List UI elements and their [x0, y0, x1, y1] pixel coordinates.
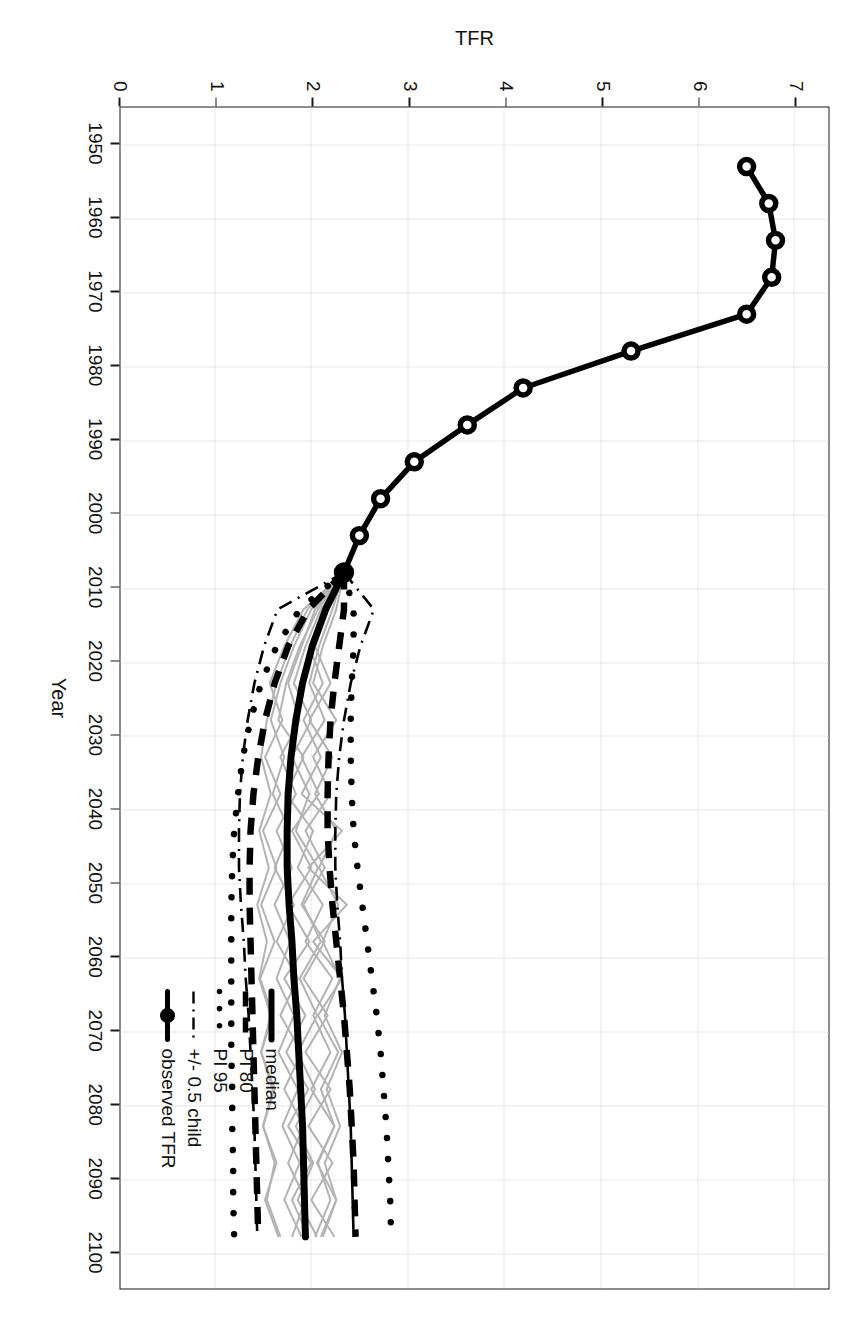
x-axis-tick	[110, 216, 119, 218]
x-axis-tick-label: 1980	[83, 344, 105, 386]
y-axis-tick-label: 3	[398, 80, 420, 91]
x-axis-tick	[110, 438, 119, 440]
observed-point	[761, 196, 775, 210]
x-axis-tick	[110, 808, 119, 810]
x-axis-tick-label: 2060	[83, 935, 105, 977]
y-axis-tick-label: 2	[301, 80, 323, 91]
x-axis-tick-label: 2010	[83, 565, 105, 607]
x-axis-tick	[110, 142, 119, 144]
y-axis-tick	[601, 97, 603, 106]
legend-item-0-5-child: +/- 0.5 child	[180, 989, 206, 1168]
y-axis-tick-label: 7	[784, 80, 806, 91]
y-axis-tick	[311, 97, 313, 106]
x-axis-tick	[110, 364, 119, 366]
observed-point	[407, 454, 421, 468]
x-axis-tick	[110, 660, 119, 662]
x-axis-tick	[110, 1103, 119, 1105]
y-axis-tick-label: 0	[108, 80, 130, 91]
series-observed-tfr	[343, 166, 775, 572]
x-axis-tick-label: 1970	[83, 270, 105, 312]
x-axis-tick-label: 2090	[83, 1157, 105, 1199]
legend-label: PI 95	[208, 1041, 230, 1092]
observed-point	[516, 380, 530, 394]
x-axis-tick-label: 1960	[83, 196, 105, 238]
legend-key-dashdot	[180, 989, 206, 1041]
legend-item-pi-80: PI 80	[232, 989, 258, 1168]
legend-key-solid-thick	[258, 989, 284, 1041]
legend: medianPI 80PI 95+/- 0.5 childobserved TF…	[154, 989, 284, 1168]
x-axis-tick-label: 2100	[83, 1231, 105, 1273]
observed-point	[336, 565, 351, 580]
x-axis-tick-label: 2030	[83, 713, 105, 755]
legend-label: median	[260, 1041, 282, 1110]
y-axis-tick	[408, 97, 410, 106]
observed-point	[624, 344, 638, 358]
x-axis-tick-label: 2000	[83, 492, 105, 534]
x-axis-tick	[110, 882, 119, 884]
y-axis-tick-label: 6	[688, 80, 710, 91]
x-axis-title: Year	[46, 677, 69, 717]
observed-point	[768, 233, 782, 247]
y-axis-tick-label: 4	[494, 80, 516, 91]
legend-label: observed TFR	[156, 1041, 178, 1168]
x-axis-tick	[110, 290, 119, 292]
x-axis-tick-label: 2020	[83, 639, 105, 681]
figure-page: 1950196019701980199020002010202020302040…	[0, 0, 862, 1321]
legend-key-dotted	[206, 989, 232, 1041]
legend-item-pi-95: PI 95	[206, 989, 232, 1168]
legend-key-dashed	[232, 989, 258, 1041]
x-axis-tick-label: 2080	[83, 1083, 105, 1125]
observed-point	[764, 270, 778, 284]
x-axis-tick-label: 1990	[83, 418, 105, 460]
observed-point	[352, 528, 366, 542]
x-axis-tick	[110, 512, 119, 514]
observed-point	[739, 307, 753, 321]
x-axis-tick-label: 2050	[83, 861, 105, 903]
observed-point	[739, 159, 753, 173]
x-axis-tick	[110, 1251, 119, 1253]
x-axis-tick-label: 1950	[83, 122, 105, 164]
legend-key-solid-point	[154, 989, 180, 1041]
y-axis-tick	[215, 97, 217, 106]
y-axis-tick-label: 1	[205, 80, 227, 91]
x-axis-tick-label: 2070	[83, 1009, 105, 1051]
x-axis-tick	[110, 734, 119, 736]
x-axis-tick	[110, 1177, 119, 1179]
x-axis-tick	[110, 1029, 119, 1031]
y-axis-tick	[698, 97, 700, 106]
y-axis-tick	[794, 97, 796, 106]
x-axis-tick	[110, 955, 119, 957]
y-axis-tick	[505, 97, 507, 106]
y-axis: 01234567	[119, 46, 829, 106]
legend-item-median: median	[258, 989, 284, 1168]
y-axis-tick	[118, 97, 120, 106]
y-axis-tick-label: 5	[591, 80, 613, 91]
observed-point	[460, 417, 474, 431]
x-axis-tick	[110, 586, 119, 588]
legend-label: PI 80	[234, 1041, 256, 1092]
x-axis-tick-label: 2040	[83, 787, 105, 829]
tfr-projection-figure: 1950196019701980199020002010202020302040…	[0, 0, 862, 1321]
legend-label: +/- 0.5 child	[182, 1041, 204, 1147]
y-axis-title: TFR	[455, 26, 494, 49]
series-0-5-child-upper	[335, 572, 374, 1236]
legend-item-observed-tfr: observed TFR	[154, 989, 180, 1168]
observed-point	[373, 491, 387, 505]
